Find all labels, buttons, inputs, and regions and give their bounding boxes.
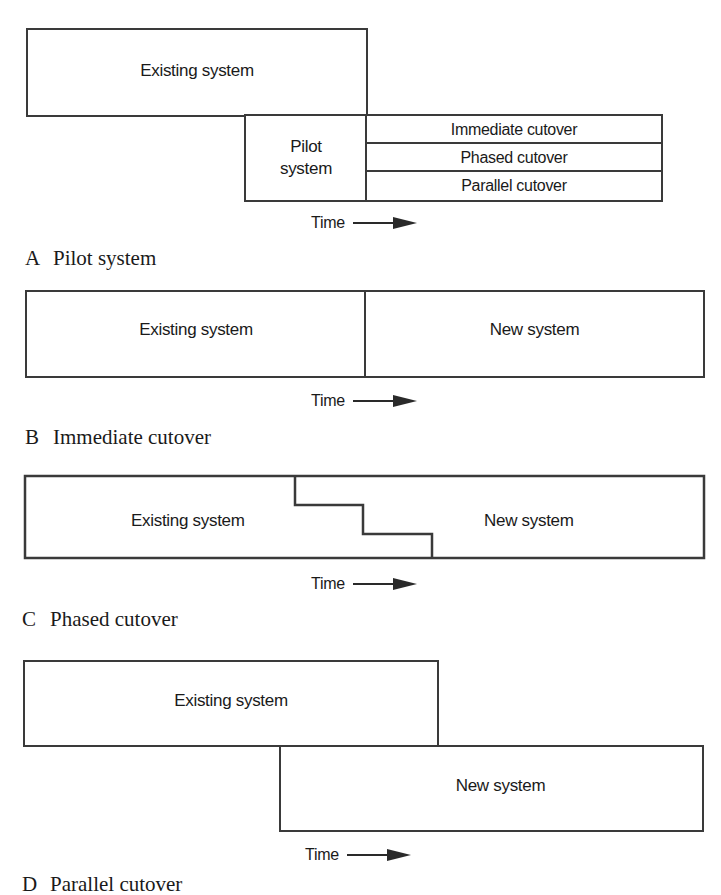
c-existing-system-label: Existing system bbox=[131, 511, 245, 531]
d-time-arrow-icon bbox=[347, 848, 413, 862]
c-caption: CPhased cutover bbox=[22, 607, 178, 632]
d-existing-system-box: Existing system bbox=[23, 660, 439, 747]
d-caption: DParallel cutover bbox=[22, 872, 182, 895]
c-time-arrow-icon bbox=[353, 577, 419, 591]
d-caption-title: Parallel cutover bbox=[50, 872, 182, 895]
d-caption-letter: D bbox=[22, 872, 50, 895]
d-time-label: Time bbox=[305, 846, 339, 864]
c-caption-title: Phased cutover bbox=[50, 607, 178, 631]
d-existing-system-label: Existing system bbox=[174, 691, 288, 711]
d-time-axis: Time bbox=[305, 846, 413, 864]
c-time-label: Time bbox=[311, 575, 345, 593]
c-caption-letter: C bbox=[22, 607, 50, 632]
c-time-axis: Time bbox=[311, 575, 419, 593]
d-new-system-label: New system bbox=[456, 776, 546, 796]
d-new-system-box: New system bbox=[279, 745, 704, 832]
c-new-system-label: New system bbox=[484, 511, 574, 531]
